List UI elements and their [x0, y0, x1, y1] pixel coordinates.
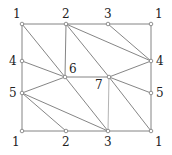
vertex-label-n4: 1 — [155, 7, 163, 21]
vertex-label-n12: 2 — [62, 135, 70, 149]
labels-group: 12314467551231 — [9, 7, 164, 149]
graph-diagram: 12314467551231 — [0, 0, 172, 155]
edge-n8-n6 — [109, 61, 151, 77]
vertex-n12 — [64, 129, 68, 133]
vertex-label-n14: 1 — [155, 135, 163, 149]
vertex-n3 — [106, 22, 110, 26]
vertex-n8 — [107, 75, 111, 79]
vertex-n14 — [149, 129, 153, 133]
vertex-n9 — [20, 91, 24, 95]
vertex-label-n6: 4 — [156, 54, 164, 68]
vertex-label-n13: 3 — [104, 135, 112, 149]
vertex-n1 — [20, 22, 24, 26]
edge-n9-n12 — [22, 93, 66, 131]
vertex-label-n11: 1 — [12, 135, 20, 149]
edge-n3-n6 — [108, 24, 151, 61]
nodes-group — [20, 22, 153, 133]
edge-n7-n9 — [22, 77, 65, 93]
vertex-label-n8: 7 — [95, 78, 103, 92]
vertex-n11 — [20, 129, 24, 133]
vertex-label-n1: 1 — [13, 7, 21, 21]
vertex-n5 — [20, 59, 24, 63]
vertex-n2 — [64, 22, 68, 26]
vertex-n10 — [149, 91, 153, 95]
vertex-n13 — [106, 129, 110, 133]
edge-n2-n7 — [65, 24, 66, 77]
edge-n8-n13 — [108, 77, 109, 131]
vertex-n7 — [63, 75, 67, 79]
vertex-label-n10: 5 — [156, 86, 164, 100]
edges-group — [22, 24, 151, 131]
vertex-label-n9: 5 — [9, 86, 17, 100]
edge-n2-n6 — [66, 24, 151, 61]
vertex-n4 — [149, 22, 153, 26]
vertex-label-n5: 4 — [9, 54, 17, 68]
vertex-label-n2: 2 — [62, 7, 70, 21]
vertex-n6 — [149, 59, 153, 63]
vertex-label-n7: 6 — [69, 62, 77, 76]
edge-n9-n13 — [22, 93, 108, 131]
vertex-label-n3: 3 — [104, 7, 112, 21]
